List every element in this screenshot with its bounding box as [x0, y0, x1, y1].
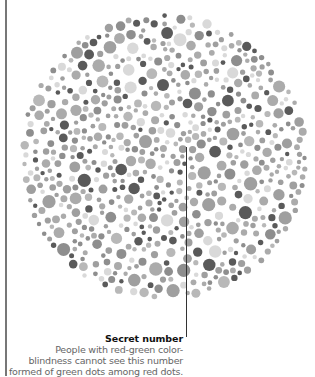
plate-dot — [266, 62, 271, 67]
plate-dot — [92, 239, 102, 249]
caption-body: People with red-green color- blindness c… — [0, 344, 183, 377]
plate-dot — [72, 138, 78, 144]
plate-dot — [106, 114, 111, 119]
plate-dot — [70, 105, 81, 116]
plate-dot — [23, 176, 30, 183]
plate-dot — [143, 17, 149, 23]
plate-dot — [172, 210, 178, 216]
plate-dot — [157, 207, 161, 211]
plate-dot — [280, 101, 284, 105]
plate-dot — [300, 174, 306, 180]
plate-dot — [237, 271, 242, 276]
plate-dot — [114, 96, 122, 104]
plate-dot — [201, 272, 207, 278]
plate-dot — [125, 81, 137, 93]
plate-dot — [283, 226, 288, 231]
plate-dot — [189, 146, 196, 153]
plate-dot — [124, 208, 129, 213]
plate-dot — [264, 185, 271, 192]
plate-dot — [52, 215, 60, 223]
plate-dot — [69, 58, 74, 63]
plate-dot — [28, 170, 34, 176]
plate-dot — [111, 138, 115, 142]
plate-dot — [91, 124, 96, 129]
plate-dot — [154, 185, 159, 190]
plate-dot — [90, 39, 98, 47]
plate-dot — [260, 215, 265, 220]
plate-dot — [40, 127, 47, 134]
plate-dot — [69, 162, 80, 173]
plate-dot — [151, 101, 161, 111]
plate-dot — [155, 241, 161, 247]
plate-dot — [177, 180, 183, 186]
plate-dot — [188, 172, 196, 180]
plate-dot — [49, 127, 53, 131]
plate-dot — [222, 95, 234, 107]
plate-dot — [120, 185, 126, 191]
plate-dot — [67, 88, 73, 94]
plate-dot — [112, 187, 117, 192]
plate-dot — [85, 73, 89, 77]
plate-dot — [217, 161, 227, 171]
plate-dot — [72, 185, 78, 191]
plate-dot — [114, 80, 120, 86]
plate-dot — [116, 249, 126, 259]
plate-dot — [209, 50, 215, 56]
plate-dot — [149, 213, 158, 222]
plate-dot — [99, 185, 108, 194]
plate-dot — [286, 159, 293, 166]
plate-dot — [138, 177, 144, 183]
plate-dot — [270, 158, 275, 163]
plate-dot — [109, 199, 115, 205]
plate-dot — [302, 166, 307, 171]
plate-dot — [43, 148, 49, 154]
plate-dot — [143, 104, 148, 109]
plate-dot — [85, 165, 91, 171]
plate-dot — [146, 191, 152, 197]
plate-dot — [132, 247, 136, 251]
plate-dot — [96, 117, 100, 121]
plate-dot — [252, 49, 257, 54]
plate-dot — [142, 91, 148, 97]
plate-dot — [49, 76, 54, 81]
plate-dot — [236, 40, 242, 46]
plate-dot — [72, 71, 81, 80]
plate-dot — [176, 82, 181, 87]
plate-dot — [134, 108, 138, 112]
plate-dot — [34, 111, 44, 121]
plate-dot — [252, 216, 258, 222]
plate-dot — [230, 268, 236, 274]
plate-dot — [262, 148, 271, 157]
plate-dot — [160, 145, 167, 152]
plate-dot — [260, 64, 265, 69]
plate-dot — [250, 73, 255, 78]
plate-dot — [293, 208, 298, 213]
plate-dot — [148, 282, 154, 288]
plate-dot — [297, 137, 303, 143]
plate-dot — [76, 219, 82, 225]
plate-dot — [128, 274, 141, 287]
plate-dot — [82, 273, 86, 277]
plate-dot — [191, 114, 196, 119]
plate-dot — [57, 243, 70, 256]
plate-dot — [259, 138, 265, 144]
plate-dot — [146, 68, 157, 79]
plate-dot — [182, 112, 187, 117]
plate-dot — [33, 95, 45, 107]
plate-dot — [42, 195, 55, 208]
plate-dot — [222, 111, 230, 119]
plate-dot — [71, 47, 83, 59]
plate-dot — [153, 193, 160, 200]
plate-dot — [81, 189, 86, 194]
plate-dot — [192, 210, 201, 219]
plate-dot — [85, 194, 92, 201]
plate-dot — [151, 251, 158, 258]
plate-dot — [137, 118, 145, 126]
plate-dot — [146, 243, 151, 248]
plate-dot — [274, 144, 281, 151]
plate-dot — [166, 248, 175, 257]
plate-dot — [42, 159, 51, 168]
plate-dot — [246, 103, 252, 109]
plate-dot — [218, 276, 230, 288]
plate-dot — [227, 145, 232, 150]
